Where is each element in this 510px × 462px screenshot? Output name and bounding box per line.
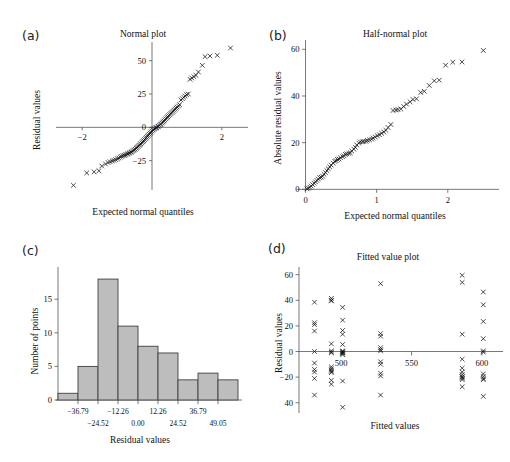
histogram-bar xyxy=(158,353,178,400)
data-point xyxy=(215,53,220,58)
data-point xyxy=(378,281,383,286)
data-point xyxy=(378,334,383,339)
data-point xyxy=(481,290,486,295)
data-point xyxy=(460,370,465,375)
panel-b-title: Half-normal plot xyxy=(363,29,427,39)
panel-d-ytick-label: 40 xyxy=(284,398,293,408)
panel-b-xtick-label: 0 xyxy=(303,195,307,205)
panel-c-ytick-label: 5 xyxy=(48,361,52,371)
panel-a-title: Normal plot xyxy=(120,29,167,39)
panel-d-ylabel: Residual values xyxy=(274,313,284,373)
data-point xyxy=(481,48,486,53)
panel-c-xtick-label: −24.52 xyxy=(87,419,109,428)
panel-d-title: Fitted value plot xyxy=(357,252,420,262)
panel-d-xlabel: Fitted values xyxy=(371,421,420,431)
histogram-bar xyxy=(58,393,78,400)
panel-c-xtick-label: 12.26 xyxy=(149,407,166,416)
data-point xyxy=(481,336,486,341)
data-point xyxy=(208,54,213,59)
panel-c-xtick-label: 36.79 xyxy=(189,407,206,416)
panel-c-svg: (c) 051015−36.79−24.52−12.260.0012.2624.… xyxy=(0,231,255,462)
panel-c-plot-area: 051015−36.79−24.52−12.260.0012.2624.5236… xyxy=(43,267,242,428)
data-point xyxy=(340,332,345,337)
data-point xyxy=(378,362,383,367)
panel-d-xtick-label: 550 xyxy=(405,358,418,368)
histogram-bar xyxy=(98,279,118,400)
data-point xyxy=(384,128,389,133)
panel-b-xtick-label: 1 xyxy=(375,195,379,205)
data-point xyxy=(389,122,394,127)
data-point xyxy=(340,405,345,410)
panel-a-ytick-label: 25 xyxy=(137,89,146,99)
data-point xyxy=(200,63,205,68)
panel-a-normal-plot: (a) Normal plot −22−2502550 Expected nor… xyxy=(0,0,255,231)
data-point xyxy=(460,280,465,285)
data-point xyxy=(378,359,383,364)
data-point xyxy=(194,73,199,78)
panel-a-ytick-label: 50 xyxy=(137,56,146,66)
panel-b-xlabel: Expected normal quantiles xyxy=(344,211,446,221)
histogram-bar xyxy=(118,326,138,400)
data-point xyxy=(432,79,437,84)
panel-a-tag: (a) xyxy=(22,28,39,43)
data-point xyxy=(177,102,182,107)
panel-d-svg: (d) Fitted value plot 40−200204060500550… xyxy=(255,231,510,462)
panel-c-xtick-label: −12.26 xyxy=(107,407,129,416)
panel-b-tag: (b) xyxy=(269,28,287,43)
panel-d-xtick-label: 500 xyxy=(335,358,348,368)
data-point xyxy=(329,342,334,347)
histogram-bar xyxy=(78,366,98,400)
data-point xyxy=(312,370,317,375)
data-point xyxy=(196,70,201,75)
data-point xyxy=(378,393,383,398)
panel-a-xtick-label: −2 xyxy=(78,132,87,142)
panel-b-plot-area: 0120204060 xyxy=(291,40,499,205)
panel-c-ytick-label: 15 xyxy=(43,294,52,304)
panel-d-ytick-label: 40 xyxy=(284,295,293,305)
data-point xyxy=(228,46,233,51)
data-point xyxy=(481,372,486,377)
panel-a-xtick-label: 2 xyxy=(220,132,224,142)
panel-c-xtick-label: 0.00 xyxy=(131,419,144,428)
panel-b-ytick-label: 60 xyxy=(291,44,300,54)
data-point xyxy=(84,171,89,176)
data-point xyxy=(450,60,455,65)
data-point xyxy=(312,361,317,366)
data-point xyxy=(460,384,465,389)
data-point xyxy=(312,367,317,372)
data-point xyxy=(414,97,419,102)
data-point xyxy=(481,319,486,324)
panel-d-xtick-label: 600 xyxy=(475,358,488,368)
data-point xyxy=(481,394,486,399)
panel-a-ylabel: Residual values xyxy=(32,90,42,150)
residual-diagnostics-figure: (a) Normal plot −22−2502550 Expected nor… xyxy=(0,0,510,462)
panel-c-histogram: (c) 051015−36.79−24.52−12.260.0012.2624.… xyxy=(0,231,255,462)
data-point xyxy=(184,92,189,97)
panel-a-svg: (a) Normal plot −22−2502550 Expected nor… xyxy=(0,0,255,231)
data-point xyxy=(460,366,465,371)
data-point xyxy=(92,170,97,175)
histogram-bar xyxy=(138,346,158,400)
data-point xyxy=(340,318,345,323)
data-point xyxy=(329,382,334,387)
panel-d-ytick-label: 0 xyxy=(289,347,293,357)
data-point xyxy=(329,378,334,383)
data-point xyxy=(312,376,317,381)
panel-c-tag: (c) xyxy=(22,243,39,258)
panel-a-xlabel: Expected normal quantiles xyxy=(92,207,194,217)
data-point xyxy=(422,89,427,94)
data-point xyxy=(481,302,486,307)
panel-b-ytick-label: 0 xyxy=(295,184,299,194)
data-point xyxy=(437,78,442,83)
data-point xyxy=(460,357,465,362)
panel-b-svg: (b) Half-normal plot 0120204060 Expected… xyxy=(255,0,510,231)
data-point xyxy=(312,393,317,398)
data-point xyxy=(460,332,465,337)
data-point xyxy=(418,90,423,95)
panel-b-ytick-label: 20 xyxy=(291,138,300,148)
data-point xyxy=(340,305,345,310)
data-point xyxy=(378,374,383,379)
panel-d-ytick-label: 20 xyxy=(284,321,293,331)
data-point xyxy=(329,299,334,304)
panel-c-xlabel: Residual values xyxy=(110,435,170,445)
